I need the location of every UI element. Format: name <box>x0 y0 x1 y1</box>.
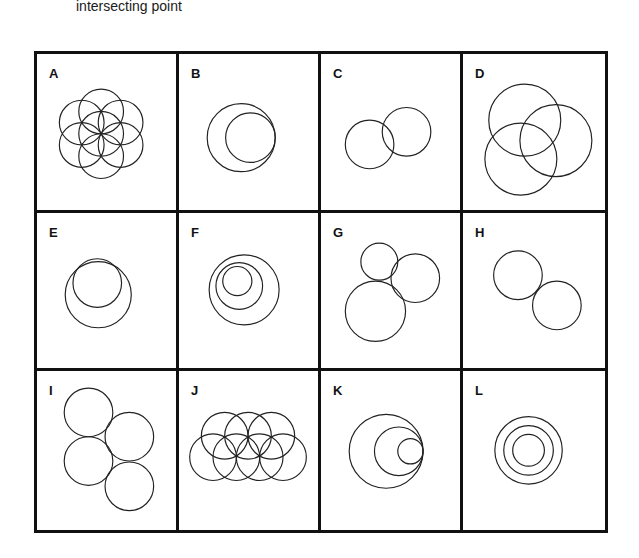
panel-i: I <box>37 371 179 530</box>
externally-tangent-circles-figure <box>463 213 605 369</box>
panel-c: C <box>321 54 463 213</box>
nested-circles-figure <box>179 213 318 369</box>
panel-f: F <box>179 213 321 372</box>
circle-relationship-grid: A B C D <box>34 51 608 533</box>
panel-e: E <box>37 213 179 372</box>
panel-a: A <box>37 54 179 213</box>
four-tangent-circles-figure <box>37 371 176 530</box>
mutually-tangent-circles-figure <box>321 213 460 369</box>
panel-j: J <box>179 371 321 530</box>
panel-g: G <box>321 213 463 372</box>
panel-k: K <box>321 371 463 530</box>
panel-d: D <box>463 54 605 213</box>
seed-of-life-figure <box>37 54 176 210</box>
panel-l: L <box>463 371 605 530</box>
intersecting-inner-circle-figure <box>37 213 176 369</box>
concentric-circles-figure <box>463 371 605 530</box>
caption: intersecting point <box>76 0 182 14</box>
internally-tangent-circles-figure <box>179 54 318 210</box>
panel-b: B <box>179 54 321 213</box>
internally-tangent-triple-figure <box>321 371 460 530</box>
seven-overlapping-circles-figure <box>179 371 318 530</box>
three-overlapping-circles-figure <box>463 54 605 210</box>
overlapping-circles-figure <box>321 54 460 210</box>
panel-h: H <box>463 213 605 372</box>
